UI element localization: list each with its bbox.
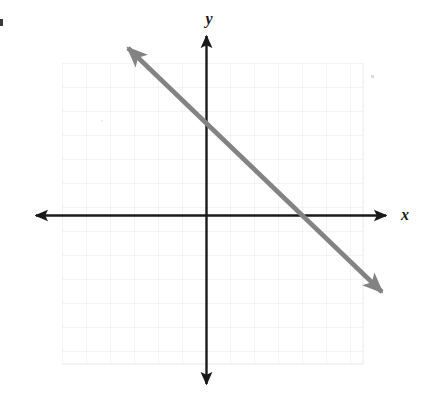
coordinate-plane-svg: x y [0, 0, 424, 407]
edge-speck-mid-left [101, 120, 103, 122]
x-axis-label: x [400, 206, 409, 223]
edge-speck-left [0, 19, 3, 26]
y-axis-label: y [203, 10, 213, 28]
graph-figure: x y [0, 0, 424, 407]
grid-lines [62, 63, 363, 364]
edge-speck-top-right [371, 75, 374, 78]
